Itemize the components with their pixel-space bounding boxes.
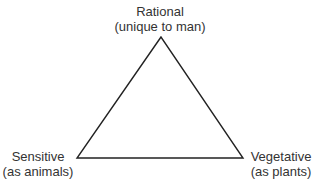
vertex-bottom-right-title: Vegetative <box>248 149 314 164</box>
triangle-outline <box>77 37 243 158</box>
vertex-bottom-left-subtitle: (as animals) <box>0 164 76 179</box>
diagram-canvas: Rational (unique to man) Sensitive (as a… <box>0 0 314 180</box>
vertex-label-bottom-left: Sensitive (as animals) <box>0 149 76 179</box>
vertex-bottom-left-title: Sensitive <box>0 149 76 164</box>
vertex-bottom-right-subtitle: (as plants) <box>248 164 314 179</box>
vertex-label-bottom-right: Vegetative (as plants) <box>248 149 314 179</box>
vertex-top-title: Rational <box>100 4 220 19</box>
vertex-top-subtitle: (unique to man) <box>100 19 220 34</box>
vertex-label-top: Rational (unique to man) <box>100 4 220 34</box>
